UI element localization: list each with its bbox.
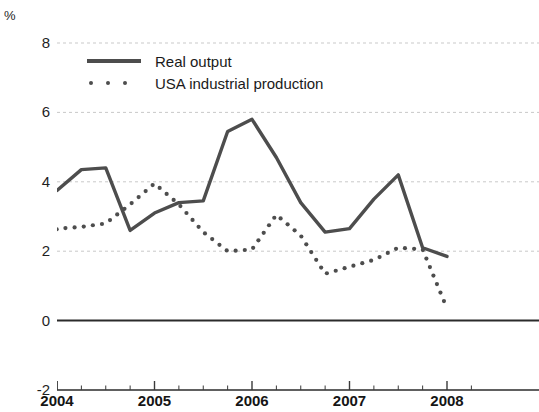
legend-label-real-output: Real output [155, 53, 232, 70]
y-axis-tick-labels: 86420-2 [8, 0, 50, 412]
y-axis-tick-4: 4 [16, 173, 50, 190]
y-axis-tick-0: 0 [16, 312, 50, 329]
chart-legend: Real output USA industrial production [85, 50, 323, 94]
series-line-real-output [57, 119, 447, 256]
legend-item-real-output: Real output [85, 50, 323, 72]
y-axis-tick-8: 8 [16, 34, 50, 51]
series-dotted-usa-industrial-production [57, 183, 446, 303]
legend-key-dotted-line [85, 76, 143, 90]
chart-container: % 86420-2 20042005200620072008 Real outp… [0, 0, 539, 412]
legend-key-solid-line [85, 54, 143, 68]
y-axis-tick-2: 2 [16, 242, 50, 259]
legend-item-usa-industrial-production: USA industrial production [85, 72, 323, 94]
y-axis-tick-6: 6 [16, 103, 50, 120]
legend-label-usa-industrial-production: USA industrial production [155, 75, 323, 92]
